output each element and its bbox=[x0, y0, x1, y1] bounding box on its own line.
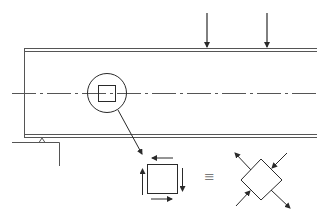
shear-stress-element bbox=[143, 158, 183, 199]
compression-arrow-sw bbox=[236, 191, 250, 206]
pin-support bbox=[12, 138, 60, 166]
beam-shear-diagram bbox=[0, 0, 328, 219]
shear-element-square bbox=[148, 165, 178, 194]
tension-arrow-nw bbox=[235, 153, 251, 170]
tension-arrow-se bbox=[271, 190, 290, 208]
support-ledge bbox=[12, 143, 60, 167]
principal-stress-element bbox=[235, 153, 290, 208]
pin-triangle bbox=[39, 138, 45, 143]
compression-arrow-ne bbox=[272, 153, 287, 168]
equivalence-symbol: ≡ bbox=[204, 170, 215, 183]
leader-arrow bbox=[118, 110, 142, 154]
